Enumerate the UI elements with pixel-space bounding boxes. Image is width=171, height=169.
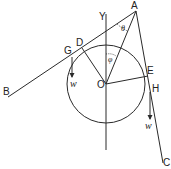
label-a: A (131, 0, 138, 11)
label-theta: θ (121, 24, 125, 33)
label-phi: φ (108, 55, 113, 64)
label-weight-left: w (70, 78, 77, 89)
label-y: Y (99, 11, 106, 22)
label-d: D (76, 37, 83, 48)
line-ao (106, 11, 136, 84)
label-h: H (152, 83, 159, 94)
label-b: B (3, 86, 10, 97)
label-c: C (163, 157, 170, 168)
label-o: O (97, 79, 105, 90)
diagram-canvas: A Y D G B O E H C θ φ w w (0, 0, 171, 169)
label-g: G (64, 45, 72, 56)
label-weight-right: w (145, 120, 152, 131)
radius-oe (106, 76, 148, 84)
label-e: E (147, 65, 154, 76)
